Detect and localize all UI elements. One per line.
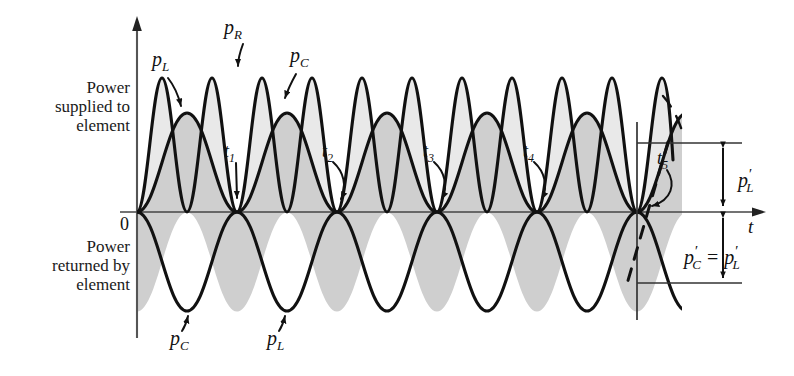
equals-sign: = xyxy=(707,246,718,268)
t3-leader xyxy=(434,162,445,199)
time-marker-t4: t4 xyxy=(523,141,534,166)
x-axis-label: t xyxy=(748,216,753,238)
t4-sub: 4 xyxy=(528,151,534,165)
t4-leader xyxy=(534,162,545,199)
pC-bottom-base: p xyxy=(170,327,180,349)
pL-top-base: p xyxy=(152,48,162,70)
origin-label: 0 xyxy=(120,214,129,235)
x-axis-arrowhead xyxy=(752,207,766,216)
time-marker-t5: t5 xyxy=(657,148,668,173)
pC-bottom-sub: C xyxy=(180,338,189,353)
figure-canvas xyxy=(0,0,794,376)
pC-top-leader xyxy=(285,74,296,98)
curve-label-pR-top: pR xyxy=(224,16,242,43)
x-axis-label-text: t xyxy=(748,216,753,237)
dimension-label-pL-prime: p′L xyxy=(738,166,754,196)
pL-top-sub: L xyxy=(162,59,169,74)
y-axis-arrowhead xyxy=(132,16,142,31)
pC-prime-sub: C xyxy=(692,257,701,272)
pR-top-leader xyxy=(238,44,243,66)
curve-label-pL-bottom: pL xyxy=(267,327,284,354)
curve-label-pC-bottom: pC xyxy=(170,327,189,354)
pC-top-sub: C xyxy=(300,55,309,70)
t5-sub: 5 xyxy=(662,158,668,172)
dimension-label-pC-prime-equals-pL-prime: p′C=p′L xyxy=(684,243,740,273)
pL-prime-sub: L xyxy=(746,180,753,195)
pL-bottom-base: p xyxy=(267,327,277,349)
t3-sub: 3 xyxy=(428,151,434,165)
t1-sub: 1 xyxy=(229,151,235,165)
t1-leader xyxy=(236,163,237,198)
curve-label-pC-top: pC xyxy=(290,44,309,71)
pL-bottom-sub: L xyxy=(277,338,284,353)
time-marker-t1: t1 xyxy=(224,141,235,166)
pR-top-base: p xyxy=(224,16,234,38)
time-marker-t2: t2 xyxy=(322,141,333,166)
t2-leader xyxy=(333,162,344,199)
pC-top-base: p xyxy=(290,44,300,66)
curve-label-pL-top: pL xyxy=(152,48,169,75)
shaded-regions xyxy=(137,78,737,376)
t2-sub: 2 xyxy=(327,151,333,165)
pL-prime2-sub: L xyxy=(733,257,740,272)
origin-label-text: 0 xyxy=(120,214,129,234)
pR-top-sub: R xyxy=(234,27,242,42)
time-marker-t3: t3 xyxy=(423,141,434,166)
power-waveform-figure: Power supplied to element Power returned… xyxy=(0,0,794,376)
